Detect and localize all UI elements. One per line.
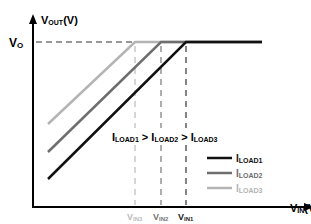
- x-axis-label: VIN(V): [290, 202, 311, 214]
- vin2-label: VIN2: [153, 212, 169, 222]
- diagram: VOUT(V) VO VIN(V) VIN3 VIN2 VIN1 ILOAD1 …: [0, 0, 311, 224]
- vin3-label: VIN3: [127, 212, 143, 222]
- legend-iload2-label: ILOAD2: [236, 168, 263, 179]
- vo-label: VO: [9, 36, 23, 50]
- legend-iload3-label: ILOAD3: [236, 183, 263, 194]
- series-iload3-line: [48, 42, 262, 124]
- legend-iload1-label: ILOAD1: [236, 153, 263, 164]
- y-axis-arrow-icon: [29, 14, 37, 24]
- y-axis-label: VOUT(V): [41, 14, 78, 26]
- vin1-label: VIN1: [178, 212, 194, 222]
